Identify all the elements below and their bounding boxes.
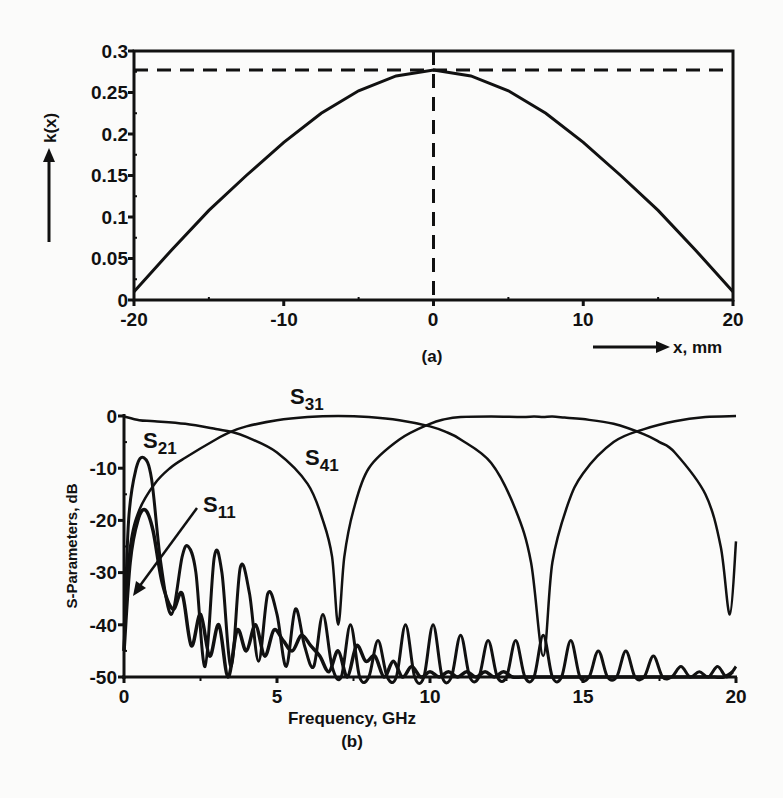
panel-b-curves <box>124 416 736 684</box>
panel-b-ytick: -20 <box>90 510 117 531</box>
s11-pointer-arrowhead-icon <box>133 581 146 596</box>
panel-b-xtick: 15 <box>572 686 594 707</box>
panel-a-ytick: 0.3 <box>102 41 128 62</box>
panel-a-xtick: -10 <box>270 309 297 330</box>
label-s21: S21 <box>143 428 177 458</box>
panel-b-ticks <box>118 416 736 683</box>
curve-s41 <box>124 416 736 656</box>
panel-a-ytick: 0.25 <box>91 82 128 103</box>
panel-a-label: (a) <box>422 347 443 366</box>
panel-b-ylabel: S-Parameters, dB <box>63 483 80 608</box>
panel-a-ytick: 0 <box>117 290 128 311</box>
panel-b-chart: 0 -10 -20 -30 -40 -50 0 5 10 15 20 Frequ… <box>63 384 747 751</box>
label-s31: S31 <box>290 384 324 414</box>
panel-a-ylabel: k(x) <box>41 113 60 143</box>
panel-b-xlabel: Frequency, GHz <box>288 709 416 728</box>
panel-a-ytick: 0.1 <box>102 207 129 228</box>
panel-a-xtick: 20 <box>722 309 743 330</box>
label-s31-sub: 31 <box>305 395 324 414</box>
panel-a-xtick: 10 <box>572 309 593 330</box>
figure: 0 0.05 0.1 0.15 0.2 0.25 0.3 -20 -10 0 1… <box>0 0 783 798</box>
label-s11-main: S <box>203 492 218 517</box>
panel-a-xtick: -20 <box>120 309 147 330</box>
label-s21-sub: 21 <box>158 439 177 458</box>
label-s41-sub: 41 <box>320 456 339 475</box>
curve-s31 <box>124 416 736 624</box>
panel-a-ylabel-group: k(x) <box>41 113 60 242</box>
panel-a-ytick: 0.2 <box>102 124 128 145</box>
panel-b-ytick: -30 <box>90 562 117 583</box>
panel-a-ticks <box>128 51 733 306</box>
panel-a-xtick: 0 <box>428 309 439 330</box>
label-s31-main: S <box>290 384 305 409</box>
label-s41-main: S <box>305 445 320 470</box>
panel-b-label: (b) <box>341 732 363 751</box>
panel-a-chart: 0 0.05 0.1 0.15 0.2 0.25 0.3 -20 -10 0 1… <box>41 41 744 366</box>
panel-b-ytick: 0 <box>106 406 117 427</box>
panel-a-ytick: 0.05 <box>91 248 128 269</box>
panel-b-ytick: -50 <box>90 667 117 688</box>
label-s11-sub: 11 <box>218 503 236 522</box>
panel-a-ytick: 0.15 <box>91 165 128 186</box>
label-s41: S41 <box>305 445 339 475</box>
panel-a-xlabel-group: x, mm <box>593 338 722 357</box>
panel-b-ytick: -10 <box>90 458 117 479</box>
label-s21-main: S <box>143 428 158 453</box>
panel-b-xtick: 20 <box>725 686 746 707</box>
panel-a-xlabel: x, mm <box>673 338 722 357</box>
panel-b-ytick: -40 <box>90 615 117 636</box>
label-s11: S11 <box>203 492 236 522</box>
arrow-up-head-icon <box>43 148 55 162</box>
panel-b-xtick: 0 <box>119 686 130 707</box>
panel-b-xtick: 5 <box>272 686 283 707</box>
arrow-right-head-icon <box>656 341 670 353</box>
panel-b-xtick: 10 <box>419 686 440 707</box>
